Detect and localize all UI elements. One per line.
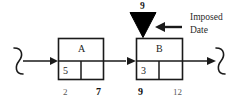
right-arrow-icon-a-to-b (127, 57, 136, 65)
node-a-title: A (78, 44, 85, 54)
squiggle-break-icon-left (14, 48, 23, 74)
node-a-early-date-label: 2 (63, 88, 68, 97)
right-arrow-icon-out-of-b (207, 57, 216, 65)
imposed-date-label-line1: Imposed (190, 13, 223, 23)
down-triangle-milestone-icon[interactable] (130, 13, 156, 38)
node-a-late-date-label: 7 (96, 87, 101, 97)
node-b-early-date-label: 9 (138, 87, 143, 97)
milestone-value-label: 9 (140, 2, 145, 12)
node-b-title: B (156, 44, 163, 54)
node-a-duration-value: 5 (63, 66, 68, 76)
node-b-duration-value: 3 (141, 66, 146, 76)
left-arrow-icon-annotation (155, 22, 165, 32)
node-b-late-date-label: 12 (173, 88, 182, 97)
right-arrow-icon-into-a (50, 57, 58, 65)
squiggle-break-icon-right (216, 48, 225, 74)
imposed-date-label-line2: Date (190, 26, 208, 36)
diagram-canvas: A 5 B 3 9 Imposed Date 2 7 9 12 (0, 0, 239, 108)
